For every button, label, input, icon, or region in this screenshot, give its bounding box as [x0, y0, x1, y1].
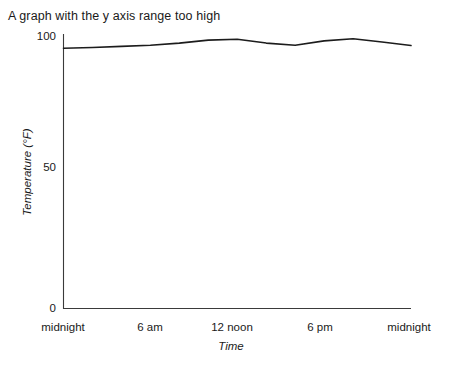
chart-axes [64, 34, 412, 309]
line-chart-plot: 100 50 0 Temperature (°F) midnight 6 am … [0, 0, 452, 370]
x-tick-label-6am: 6 am [137, 321, 163, 333]
y-axis-title: Temperature (°F) [21, 128, 33, 215]
x-tick-label-6pm: 6 pm [307, 321, 333, 333]
x-tick-label-12noon: 12 noon [211, 321, 253, 333]
chart-figure: A graph with the y axis range too high 1… [0, 0, 452, 370]
x-tick-label-midnight-end: midnight [387, 321, 431, 333]
y-tick-label-0: 0 [50, 302, 56, 314]
x-tick-label-midnight-start: midnight [41, 321, 85, 333]
y-tick-label-50: 50 [43, 161, 56, 173]
y-tick-label-100: 100 [37, 30, 56, 42]
x-axis-title: Time [218, 340, 243, 352]
temperature-line-series [64, 39, 412, 49]
